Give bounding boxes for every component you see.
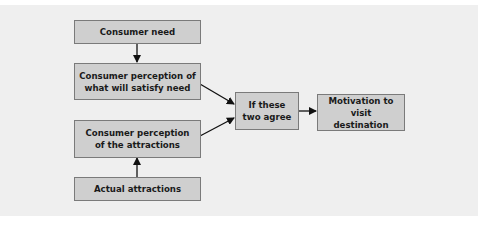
node-motivation: Motivation to visit destination	[317, 94, 405, 131]
node-perception-satisfy: Consumer perception of what will satisfy…	[74, 63, 201, 100]
node-consumer-need: Consumer need	[74, 20, 201, 44]
arrow-attractions-to-agree	[200, 118, 234, 136]
arrow-satisfy-to-agree	[200, 84, 234, 104]
node-perception-attractions: Consumer perception of the attractions	[74, 120, 201, 158]
node-actual-attractions: Actual attractions	[74, 177, 201, 201]
node-if-agree: If these two agree	[235, 92, 299, 130]
